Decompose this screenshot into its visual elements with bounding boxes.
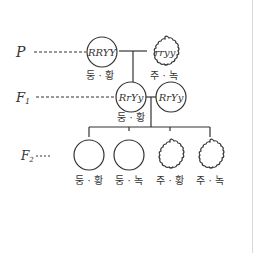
genotype-label: RRYY [87, 47, 117, 58]
f1-seed-2: RrYy [156, 82, 186, 112]
f2-seed-wrinkled-yellow: 주 · 황 [156, 139, 184, 186]
generation-label-p: P [15, 44, 26, 60]
parent-round-seed: RRYY 둥 · 황 [86, 37, 117, 81]
phenotype-label: 주 · 녹 [196, 175, 224, 186]
f2-seed-wrinkled-green: 주 · 녹 [196, 139, 224, 186]
cross-connector [119, 51, 147, 82]
round-seed-icon [114, 140, 144, 170]
f2-seed-round-yellow: 둥 · 황 [74, 140, 104, 186]
genotype-label: RrYy [118, 92, 144, 103]
phenotype-label: 주 · 녹 [150, 70, 178, 81]
generation-label-f1: F1 [15, 90, 30, 106]
phenotype-label: 둥 · 녹 [115, 175, 143, 186]
genotype-label: rryy [155, 47, 176, 58]
round-seed-icon [74, 140, 104, 170]
f2-bracket [89, 97, 210, 137]
phenotype-label: 둥 · 황 [75, 175, 103, 186]
phenotype-label: 둥 · 황 [117, 112, 145, 123]
svg-text:F2: F2 [20, 149, 34, 164]
svg-text:F1: F1 [15, 90, 30, 106]
f2-seed-round-green: 둥 · 녹 [114, 140, 144, 186]
f1-seed-1: RrYy 둥 · 황 [116, 82, 146, 123]
phenotype-label: 주 · 황 [156, 175, 184, 186]
genotype-label: RrYy [158, 92, 184, 103]
dihybrid-cross-diagram: P F1 F2 RRYY 둥 · 황 rryy 주 · 녹 RrYy 둥 · 황… [0, 0, 265, 253]
parent-wrinkled-seed: rryy 주 · 녹 [150, 36, 179, 81]
wrinkled-seed-icon [199, 139, 224, 168]
generation-label-f2: F2 [20, 149, 34, 164]
wrinkled-seed-icon [159, 139, 184, 168]
phenotype-label: 둥 · 황 [86, 70, 114, 81]
svg-text:P: P [15, 44, 26, 60]
